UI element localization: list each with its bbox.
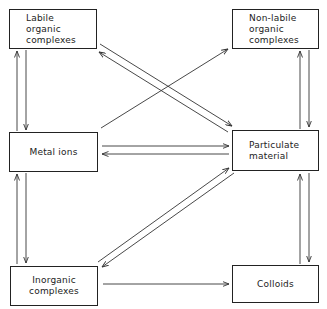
node-non-labile-organic-complexes: Non-labile organic complexes (232, 9, 319, 49)
arrow-particulate-to-inorganic (102, 173, 234, 267)
node-label: Metal ions (29, 147, 77, 158)
arrow-labile-to-particulate (100, 44, 232, 126)
arrow-metal-to-nonlabile (101, 49, 228, 128)
node-particulate-material: Particulate material (232, 130, 319, 171)
node-metal-ions: Metal ions (9, 132, 98, 172)
node-label: Non-labile organic complexes (249, 13, 299, 46)
node-label: Colloids (257, 279, 294, 290)
node-inorganic-complexes: Inorganic complexes (10, 266, 98, 306)
node-label: Labile organic complexes (26, 13, 76, 46)
node-labile-organic-complexes: Labile organic complexes (9, 9, 97, 49)
node-colloids: Colloids (232, 265, 319, 303)
node-label: Inorganic complexes (29, 275, 79, 297)
arrow-inorganic-to-particulate (98, 168, 229, 262)
node-label: Particulate material (249, 140, 299, 162)
arrow-particulate-to-labile (99, 52, 228, 132)
metal-speciation-diagram: Labile organic complexes Non-labile orga… (0, 0, 327, 309)
